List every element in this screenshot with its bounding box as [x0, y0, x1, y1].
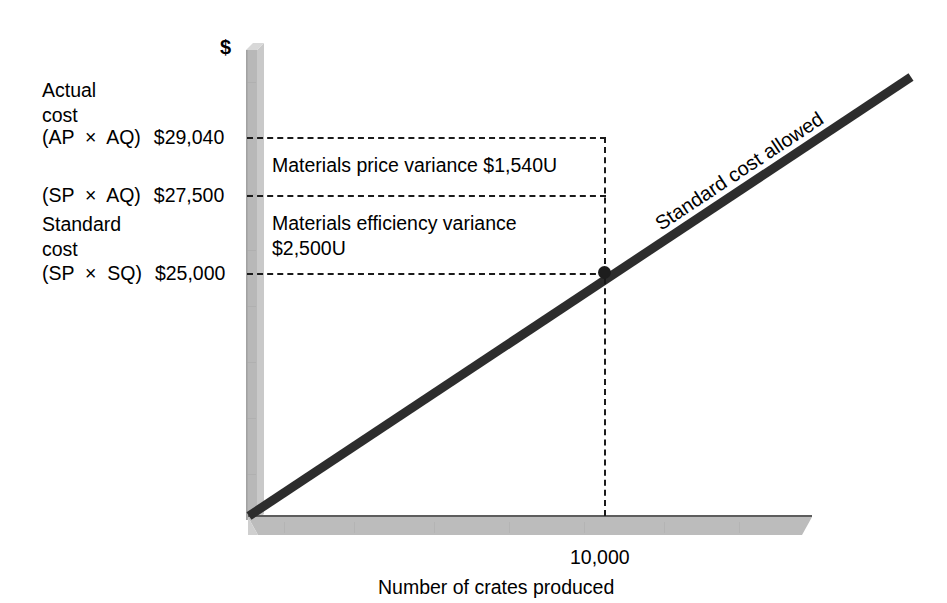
sp-aq-amount: $27,500 [154, 184, 225, 207]
actual-cost-value-row: (AP × AQ) $29,040 [42, 126, 224, 149]
sp-aq-formula: (SP × AQ) [42, 184, 141, 207]
x-axis-title: Number of crates produced [378, 576, 614, 599]
sp-sq-formula: (SP × SQ) [42, 262, 142, 285]
x-axis-tick-10000: 10,000 [570, 546, 630, 569]
guide-line-volume [604, 137, 606, 516]
materials-efficiency-variance-annotation: Materials efficiency variance $2,500U [272, 211, 517, 261]
actual-cost-label-line2: cost [42, 103, 78, 128]
sp-sq-value-row: (SP × SQ) $25,000 [42, 262, 225, 285]
sp-sq-amount: $25,000 [155, 262, 226, 285]
actual-cost-formula: (AP × AQ) [42, 126, 141, 149]
variance-analysis-diagram: $ Actual cost (AP × AQ) $29,040 (SP × AQ… [0, 0, 947, 603]
y-axis [244, 42, 266, 520]
standard-cost-label-line1: Standard [42, 212, 121, 237]
materials-price-variance-annotation: Materials price variance $1,540U [272, 153, 557, 178]
y-axis-symbol: $ [220, 36, 231, 59]
intersection-marker [598, 266, 611, 279]
guide-line-sp-aq [247, 195, 606, 197]
sp-aq-value-row: (SP × AQ) $27,500 [42, 184, 224, 207]
guide-line-actual-cost [247, 137, 606, 139]
actual-cost-amount: $29,040 [154, 126, 225, 149]
standard-cost-label-line2: cost [42, 237, 78, 262]
standard-cost-allowed-annotation: Standard cost allowed [651, 107, 828, 235]
actual-cost-label-line1: Actual [42, 78, 96, 103]
x-axis [244, 510, 819, 540]
guide-line-standard-cost [247, 273, 606, 275]
